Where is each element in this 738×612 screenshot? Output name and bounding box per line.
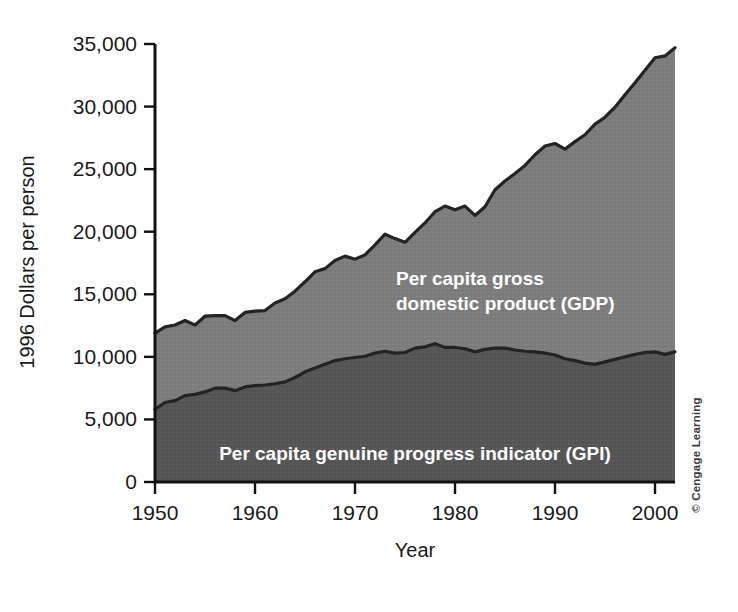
y-tick-label: 20,000 — [73, 220, 137, 243]
x-tick-label: 1990 — [532, 501, 579, 524]
copyright-credit: © Cengage Learning — [690, 397, 702, 513]
x-tick-label: 1950 — [132, 501, 179, 524]
x-tick-label: 1980 — [432, 501, 479, 524]
y-tick-label: 0 — [125, 470, 137, 493]
gdp-label-line2: domestic product (GDP) — [396, 293, 615, 314]
y-tick-label: 15,000 — [73, 282, 137, 305]
x-tick-label: 1970 — [332, 501, 379, 524]
y-axis-title: 1996 Dollars per person — [16, 155, 38, 368]
chart-figure: 35,00030,00025,00020,00015,00010,0005,00… — [0, 0, 738, 612]
area-chart: 35,00030,00025,00020,00015,00010,0005,00… — [0, 0, 738, 612]
y-tick-label: 10,000 — [73, 345, 137, 368]
y-tick-label: 35,000 — [73, 32, 137, 55]
gdp-label-line1: Per capita gross — [396, 268, 544, 289]
x-tick-label: 1960 — [232, 501, 279, 524]
y-tick-label: 5,000 — [84, 407, 137, 430]
x-tick-label: 2000 — [632, 501, 679, 524]
y-tick-label: 30,000 — [73, 95, 137, 118]
x-axis-title: Year — [395, 539, 436, 561]
gpi-label: Per capita genuine progress indicator (G… — [219, 443, 611, 464]
y-tick-label: 25,000 — [73, 157, 137, 180]
